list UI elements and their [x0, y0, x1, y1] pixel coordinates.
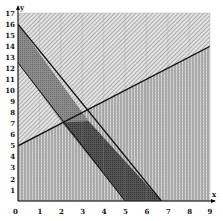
- svg-text:1: 1: [38, 207, 43, 216]
- y-axis-label: y: [19, 3, 25, 12]
- x-axis-arrow-icon: [211, 199, 216, 203]
- svg-text:6: 6: [10, 130, 15, 139]
- inequality-chart: x y 0 1 2 3 4 5 6 7 8 9 1 2 3 4 5 6 7 8 …: [0, 0, 223, 221]
- svg-text:4: 4: [10, 152, 15, 161]
- svg-text:6: 6: [145, 207, 150, 216]
- svg-text:12: 12: [5, 64, 15, 73]
- svg-text:5: 5: [10, 141, 15, 150]
- svg-text:4: 4: [102, 207, 107, 216]
- svg-text:8: 8: [187, 207, 192, 216]
- svg-text:0: 0: [13, 207, 18, 216]
- svg-text:11: 11: [5, 75, 15, 84]
- svg-text:1: 1: [10, 186, 15, 195]
- svg-text:7: 7: [166, 207, 171, 216]
- svg-text:5: 5: [123, 207, 128, 216]
- svg-text:9: 9: [208, 207, 213, 216]
- svg-text:15: 15: [5, 31, 15, 40]
- x-tick-labels: 0 1 2 3 4 5 6 7 8 9: [13, 207, 213, 216]
- svg-text:16: 16: [5, 20, 15, 29]
- svg-text:7: 7: [10, 119, 15, 128]
- svg-text:10: 10: [5, 86, 15, 95]
- svg-text:13: 13: [5, 53, 15, 62]
- svg-text:2: 2: [59, 207, 64, 216]
- y-tick-labels: 1 2 3 4 5 6 7 8 9 10 11 12 13 14 15 16 1…: [5, 9, 15, 195]
- svg-text:8: 8: [10, 108, 15, 117]
- svg-text:3: 3: [10, 163, 15, 172]
- svg-text:17: 17: [5, 9, 15, 18]
- svg-text:9: 9: [10, 97, 15, 106]
- svg-text:3: 3: [80, 207, 85, 216]
- x-axis-label: x: [212, 190, 217, 199]
- svg-text:2: 2: [10, 175, 15, 184]
- svg-text:14: 14: [5, 42, 15, 51]
